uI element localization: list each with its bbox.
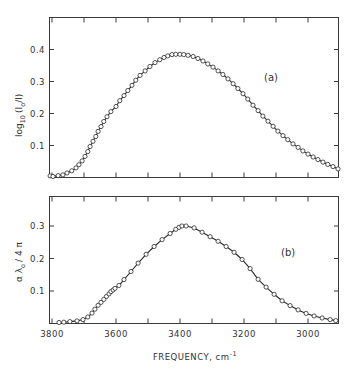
panel-a-x-ticks: [52, 18, 308, 178]
data-point-marker: [311, 155, 315, 159]
data-point-marker: [65, 171, 69, 175]
data-point-marker: [93, 307, 97, 311]
data-point-marker: [208, 235, 212, 239]
data-point-marker: [281, 134, 285, 138]
data-point-marker: [118, 99, 122, 103]
data-point-marker: [224, 244, 228, 248]
data-point-marker: [216, 69, 220, 73]
data-point-marker: [160, 238, 164, 242]
x-tick-label: 3600: [104, 329, 128, 339]
panel-a-y-axis-label: log10(Io/I): [14, 94, 27, 137]
data-point-marker: [191, 54, 195, 58]
data-point-marker: [152, 244, 156, 248]
data-point-marker: [304, 311, 308, 315]
data-point-marker: [286, 138, 290, 142]
data-point-marker: [256, 277, 260, 281]
data-point-marker: [122, 94, 126, 98]
data-point-marker: [251, 103, 255, 107]
data-point-marker: [291, 142, 295, 146]
data-point-marker: [114, 104, 118, 108]
panel-a-tag: (a): [264, 72, 278, 83]
data-point-marker: [226, 77, 230, 81]
data-point-marker: [184, 224, 188, 228]
data-point-marker: [276, 129, 280, 133]
data-point-marker: [182, 53, 186, 57]
data-point-marker: [168, 231, 172, 235]
data-point-marker: [336, 167, 340, 171]
data-point-marker: [211, 65, 215, 69]
data-point-marker: [70, 169, 74, 173]
data-point-marker: [320, 316, 324, 320]
data-point-marker: [138, 73, 142, 77]
data-point-marker: [51, 174, 55, 178]
data-point-marker: [231, 82, 235, 86]
panel-a-y-ticks: [50, 50, 339, 146]
data-point-marker: [122, 278, 126, 282]
y-tick-label: 0.2: [30, 254, 45, 264]
panel-a: 0.10.20.30.4 (a) log10(Io/I): [14, 18, 340, 179]
x-axis-label: FREQUENCY, cm-1: [153, 350, 237, 362]
data-point-marker: [288, 304, 292, 308]
data-point-marker: [68, 320, 72, 324]
panel-b-frame: [50, 197, 339, 324]
data-point-marker: [86, 150, 90, 154]
y-tick-label: 0.3: [30, 221, 45, 231]
data-point-marker: [99, 125, 103, 129]
x-tick-label: 3200: [232, 329, 256, 339]
data-point-marker: [166, 54, 170, 58]
data-point-marker: [316, 158, 320, 162]
data-point-marker: [174, 52, 178, 56]
data-point-marker: [240, 257, 244, 261]
x-axis-tick-labels: 38003600340032003000: [40, 329, 320, 339]
panel-b: 0.10.20.3 (b) α λo/ 4 π: [14, 197, 339, 325]
data-point-marker: [158, 58, 162, 62]
data-point-marker: [180, 224, 184, 228]
data-point-marker: [301, 149, 305, 153]
data-point-marker: [88, 144, 92, 148]
data-point-marker: [264, 285, 268, 289]
y-tick-label: 0.2: [30, 109, 45, 119]
y-tick-label: 0.4: [30, 45, 45, 55]
data-point-marker: [216, 239, 220, 243]
data-point-marker: [81, 318, 85, 322]
figure: 0.10.20.30.4 (a) log10(Io/I) 0.10.20.3 (…: [0, 0, 355, 371]
data-point-marker: [328, 318, 332, 322]
data-point-marker: [321, 160, 325, 164]
data-point-marker: [80, 159, 84, 163]
panel-a-y-tick-labels: 0.10.20.30.4: [30, 45, 45, 151]
data-point-marker: [236, 86, 240, 90]
data-point-marker: [272, 292, 276, 296]
data-point-marker: [134, 78, 138, 82]
data-point-marker: [77, 163, 81, 167]
panel-b-x-ticks: [52, 197, 308, 324]
data-point-marker: [312, 314, 316, 318]
data-point-marker: [296, 308, 300, 312]
x-tick-label: 3800: [40, 329, 64, 339]
panel-b-y-tick-labels: 0.10.20.3: [30, 221, 45, 296]
data-point-marker: [186, 53, 190, 57]
data-point-marker: [109, 110, 113, 114]
data-point-marker: [241, 92, 245, 96]
panel-a-frame: [50, 18, 339, 178]
data-point-marker: [62, 320, 66, 324]
panel-b-markers: [57, 224, 338, 325]
data-point-marker: [83, 154, 87, 158]
data-point-marker: [232, 250, 236, 254]
data-point-marker: [86, 315, 90, 319]
x-tick-label: 3400: [168, 329, 192, 339]
data-point-marker: [334, 319, 338, 323]
data-point-marker: [192, 226, 196, 230]
data-point-marker: [136, 261, 140, 265]
data-point-marker: [113, 286, 117, 290]
data-point-marker: [75, 319, 79, 323]
data-point-marker: [61, 173, 65, 177]
data-point-marker: [201, 59, 205, 63]
y-tick-label: 0.1: [30, 141, 45, 151]
data-point-marker: [144, 252, 148, 256]
data-point-marker: [296, 145, 300, 149]
panel-b-y-ticks: [50, 226, 339, 291]
data-point-marker: [129, 269, 133, 273]
data-point-marker: [148, 64, 152, 68]
data-point-marker: [91, 139, 95, 143]
data-point-marker: [271, 124, 275, 128]
